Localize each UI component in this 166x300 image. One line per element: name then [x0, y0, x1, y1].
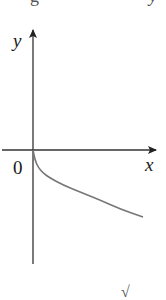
- origin-label: 0: [13, 158, 23, 177]
- function-curve: [33, 150, 143, 217]
- y-axis-label: y: [13, 31, 21, 50]
- cropped-top-text-right: y: [149, 0, 157, 5]
- cropped-bottom-radical: √: [121, 284, 130, 300]
- cropped-top-text-left: g: [30, 0, 39, 5]
- x-axis-label: x: [145, 155, 153, 174]
